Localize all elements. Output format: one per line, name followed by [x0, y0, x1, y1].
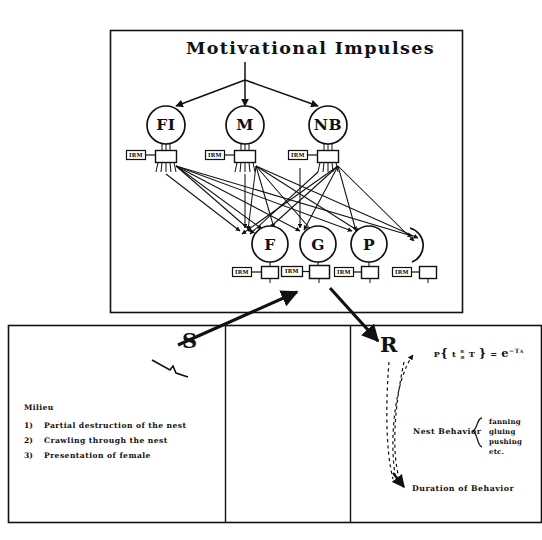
- node-p-label: P: [354, 237, 384, 253]
- behavior-item-pushing: pushing: [489, 438, 522, 445]
- node-f-label: F: [255, 237, 285, 253]
- formula-exponent: −T: [509, 347, 520, 354]
- irm-label-upper-3: IRM: [291, 153, 305, 158]
- milieu-item-number-1: 1): [24, 422, 33, 430]
- formula-base: e: [501, 346, 509, 360]
- irm-label-lower-2: IRM: [285, 269, 299, 274]
- formula-variable: t: [452, 349, 456, 359]
- node-g-label: G: [303, 237, 333, 253]
- milieu-item-number-2: 2): [24, 437, 33, 445]
- formula-exponent-superscript: A: [520, 349, 524, 354]
- irm-label-lower-3: IRM: [337, 270, 351, 275]
- behavior-item-gluing: gluing: [489, 428, 516, 435]
- duration-arrowhead: [393, 473, 404, 487]
- formula-relation: ≥≤: [460, 349, 465, 360]
- response-dashed-curves: [387, 355, 413, 481]
- milieu-item-text-2: Crawling through the nest: [44, 437, 168, 445]
- formula-prefix: P: [434, 349, 441, 359]
- milieu-item-text-3: Presentation of female: [44, 452, 151, 460]
- figure-canvas: Motivational Impulses FI M NB F G P IRM …: [0, 0, 542, 540]
- response-formula: P{ t ≥≤ T } = e−TA: [420, 340, 524, 369]
- irm-label-lower-4: IRM: [395, 270, 409, 275]
- irm-label-lower-1: IRM: [235, 270, 249, 275]
- formula-relation-bottom: ≤: [460, 354, 465, 360]
- node-nb-label: NB: [313, 117, 343, 133]
- formula-open-brace: {: [441, 346, 449, 360]
- upper-irm-units: [127, 151, 339, 173]
- node-m-label: M: [230, 117, 260, 133]
- response-arrow: [330, 288, 378, 341]
- irm-label-upper-1: IRM: [129, 153, 143, 158]
- response-label: R: [380, 334, 397, 355]
- node-fi-label: FI: [151, 117, 181, 133]
- formula-threshold: T: [469, 349, 476, 359]
- behavior-item-fanning: fanning: [489, 418, 521, 425]
- milieu-item-number-3: 3): [24, 452, 33, 460]
- nest-behavior-label: Nest Behavior: [413, 428, 481, 436]
- stimulus-squiggle: [152, 360, 188, 377]
- stimulus-label: S: [182, 330, 197, 351]
- formula-equals: =: [490, 349, 497, 359]
- figure-title: Motivational Impulses: [186, 40, 435, 58]
- irm-label-upper-2: IRM: [208, 153, 222, 158]
- behavior-item-etc: etc.: [489, 448, 504, 455]
- duration-of-behavior-label: Duration of Behavior: [412, 485, 514, 493]
- formula-close-brace: }: [479, 346, 487, 360]
- milieu-heading: Milieu: [24, 404, 54, 412]
- milieu-item-text-1: Partial destruction of the nest: [44, 422, 187, 430]
- impulse-distribution-arrows: [176, 62, 318, 106]
